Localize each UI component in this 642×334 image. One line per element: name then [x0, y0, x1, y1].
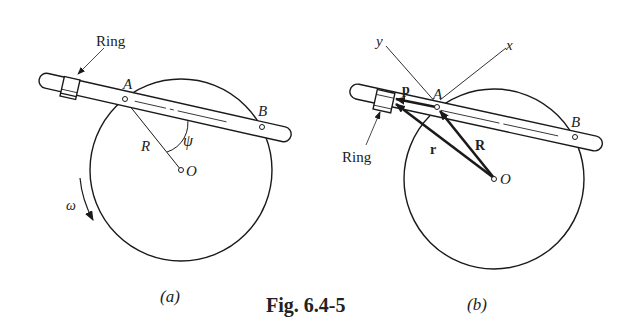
panel-a-caption: (a) [160, 287, 180, 306]
point-O-label-b: O [500, 171, 511, 187]
point-B-label-b: B [571, 114, 580, 130]
ring-b [373, 90, 395, 113]
omega-label: ω [66, 198, 76, 213]
vector-R-label: R [475, 138, 486, 153]
vector-p-label: p [402, 82, 410, 97]
point-A-b [435, 105, 440, 110]
point-O-b [492, 177, 497, 182]
figure-canvas: Ring A B O R ψ ω (a) Fig. 6.4-5 [0, 0, 642, 334]
point-O-a [179, 168, 184, 173]
vector-r-label: r [430, 142, 436, 157]
point-B-label-a: B [258, 103, 267, 119]
ring-label-a: Ring [96, 33, 126, 49]
panel-b: y x p A B O r R Ring (b) [342, 33, 604, 314]
point-A-label-b: A [432, 86, 443, 102]
axis-y-label: y [374, 33, 383, 49]
ring-leader-b [366, 112, 380, 145]
point-B-b [573, 135, 578, 140]
ring-leader-a [78, 48, 104, 74]
point-A-a [123, 97, 128, 102]
figure-caption: Fig. 6.4-5 [266, 294, 345, 317]
axis-x-label: x [505, 37, 513, 53]
radius-label-a: R [140, 138, 150, 154]
ring-label-b: Ring [342, 149, 372, 165]
point-A-label-a: A [122, 76, 133, 92]
point-B-a [260, 125, 265, 130]
panel-a: Ring A B O R ψ ω (a) [38, 33, 293, 306]
ring-a [60, 76, 80, 99]
point-O-label-a: O [186, 163, 197, 179]
angle-label-psi: ψ [183, 132, 194, 150]
panel-b-caption: (b) [467, 295, 487, 314]
